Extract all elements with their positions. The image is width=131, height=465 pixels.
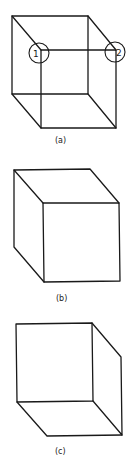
right-face [92,323,122,435]
top-face [14,169,119,203]
panel-caption: (b) [56,294,67,303]
marker-circle [29,43,49,63]
panel-caption: (a) [55,136,66,145]
solid-cube-top-view [14,169,120,282]
edge-top-right [88,16,116,50]
vertex-marker-1: 1 [29,43,49,63]
panel-a: 1 2 (a) [12,16,125,145]
front-face [43,203,120,282]
necker-cube-figure: 1 2 (a) (b) (c) [0,0,131,465]
edge-top-left [12,16,41,50]
bottom-face [17,402,122,436]
vertex-marker-2: 2 [105,42,125,62]
front-face [41,50,116,128]
edge-bottom-left [12,94,41,128]
front-face [16,323,93,402]
back-face [12,16,88,94]
panel-b: (b) [14,169,120,303]
marker-label: 2 [116,48,122,58]
edge-bottom-right [88,94,116,128]
panel-c: (c) [16,323,122,456]
panel-caption: (c) [55,447,66,456]
marker-circle [105,42,125,62]
marker-label: 1 [33,49,39,59]
solid-cube-bottom-view [16,323,122,436]
wireframe-cube [12,16,116,128]
